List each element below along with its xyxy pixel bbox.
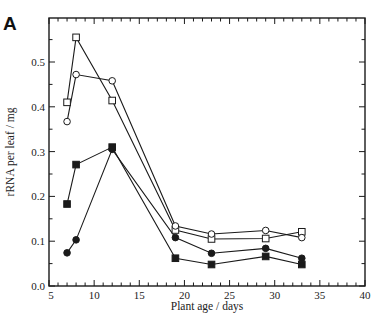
open-circle-marker: [299, 234, 306, 241]
y-tick-label: 0.1: [31, 235, 45, 247]
x-axis-label: Plant age / days: [171, 300, 244, 313]
open-circle-marker: [64, 118, 71, 125]
filled-circle-marker: [73, 237, 80, 244]
y-tick-label: 0.0: [31, 280, 45, 292]
filled-circle-marker: [172, 234, 179, 241]
panel-label: A: [3, 13, 17, 34]
filled-square-marker: [208, 261, 215, 268]
filled-square-marker: [299, 261, 306, 268]
plot-frame: [49, 18, 365, 286]
series-line: [67, 75, 302, 238]
x-tick-label: 10: [89, 289, 101, 301]
y-tick-label: 0.5: [31, 56, 45, 68]
x-tick-label: 30: [269, 289, 281, 301]
open-square-marker: [109, 97, 116, 104]
open-circle-marker: [109, 78, 116, 85]
x-tick-label: 35: [314, 289, 326, 301]
filled-square-marker: [172, 255, 179, 262]
x-tick-label: 40: [360, 289, 372, 301]
filled-circle-marker: [109, 146, 116, 153]
y-tick-label: 0.3: [31, 146, 45, 158]
axis-ticks: [49, 18, 365, 286]
y-axis-label: rRNA per leaf / mg: [4, 107, 17, 196]
filled-circle-marker: [208, 250, 215, 257]
y-tick-label: 0.4: [31, 101, 45, 113]
filled-circle-marker: [262, 245, 269, 252]
filled-circle-marker: [299, 255, 306, 262]
axis-tick-labels: 5101520253035400.00.10.20.30.40.5: [31, 56, 371, 301]
open-circle-marker: [262, 227, 269, 234]
filled-square-marker: [64, 201, 71, 208]
x-tick-label: 5: [48, 289, 54, 301]
filled-circle-marker: [64, 250, 71, 257]
open-circle-marker: [172, 223, 179, 230]
x-tick-label: 15: [134, 289, 146, 301]
filled-square-marker: [262, 253, 269, 260]
open-square-marker: [262, 235, 269, 242]
open-circle-marker: [208, 231, 215, 238]
open-circle-marker: [73, 71, 80, 78]
chart: A 5101520253035400.00.10.20.30.40.5 Plan…: [0, 0, 383, 326]
open-square-marker: [64, 99, 71, 106]
series-line: [67, 37, 302, 239]
y-tick-label: 0.2: [31, 190, 45, 202]
open-square-marker: [73, 34, 80, 41]
filled-square-marker: [73, 161, 80, 168]
